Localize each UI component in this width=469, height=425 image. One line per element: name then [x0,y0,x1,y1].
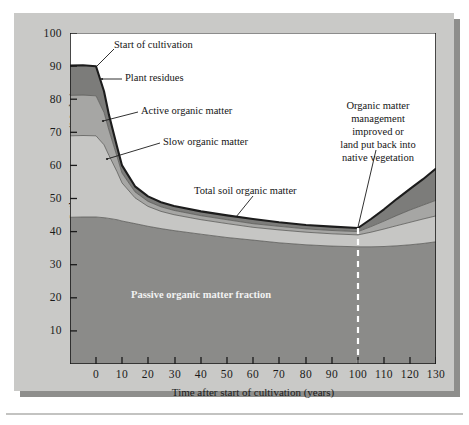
x-tick-130: 130 [419,368,453,380]
y-tick-100: 100 [22,27,62,39]
y-tick-20: 20 [22,291,62,303]
x-axis-label: Time after start of cultivation (years) [70,386,436,398]
management-note-line-4: land put back into [310,138,446,151]
y-tick-60: 60 [22,159,62,171]
y-tick-80: 80 [22,93,62,105]
management-note-line-1: Organic matter [310,99,446,112]
annotation-passive-organic-matter-fraction: Passive organic matter fraction [131,289,271,300]
annotation-plant-residues: Plant residues [125,72,184,84]
dot-plant-residues [101,78,103,80]
annotation-total-soil-organic-matter: Total soil organic matter [194,185,297,197]
y-tick-70: 70 [22,126,62,138]
bottom-rule [6,413,463,415]
management-note-line-3: improved or [310,125,446,138]
y-tick-50: 50 [22,192,62,204]
annotation-slow-organic-matter: Slow organic matter [163,136,248,148]
plate-shadow-right [454,19,460,397]
y-tick-90: 90 [22,60,62,72]
y-tick-40: 40 [22,225,62,237]
management-note-line-5: native vegetation [310,151,446,164]
plot-area: Start of cultivation Plant residues Acti… [70,33,436,364]
y-tick-30: 30 [22,258,62,270]
dot-active-organic-matter [102,120,104,122]
annotation-management-note: Organic matter management improved or la… [310,99,446,164]
annotation-active-organic-matter: Active organic matter [141,105,232,117]
annotation-start-of-cultivation: Start of cultivation [114,39,193,51]
y-tick-10: 10 [22,324,62,336]
dot-slow-organic-matter [106,158,108,160]
figure-root: 100 90 80 70 60 50 40 30 20 10 Soil orga… [0,0,469,425]
management-note-line-2: management [310,112,446,125]
